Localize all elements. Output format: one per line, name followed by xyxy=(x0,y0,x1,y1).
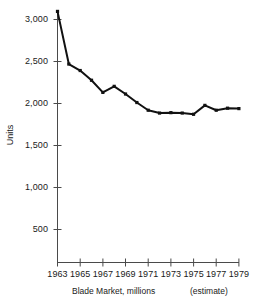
data-point xyxy=(56,10,59,13)
y-tick-label-2500: 2,500 xyxy=(6,56,48,66)
chart-plot-area xyxy=(0,0,254,305)
x-tick-label-1979: 1979 xyxy=(224,269,254,279)
data-point xyxy=(90,79,93,82)
data-point xyxy=(181,111,184,114)
data-point xyxy=(101,91,104,94)
y-tick-label-1000: 1,000 xyxy=(6,182,48,192)
line-chart: 3,000 2,500 2,000 1,500 1,000 500 Units … xyxy=(0,0,254,305)
data-point xyxy=(147,109,150,112)
y-tick-label-2000: 2,000 xyxy=(6,98,48,108)
x-axis-caption: Blade Market, millions xyxy=(72,286,155,296)
series-markers-units xyxy=(56,10,241,116)
data-point xyxy=(158,111,161,114)
y-tick-label-3000: 3,000 xyxy=(6,14,48,24)
data-point xyxy=(124,92,127,95)
data-point xyxy=(79,69,82,72)
data-point xyxy=(67,62,70,65)
data-point xyxy=(237,107,240,110)
data-point xyxy=(169,111,172,114)
series-line-units xyxy=(58,11,239,114)
data-point xyxy=(226,107,229,110)
y-axis-title: Units xyxy=(5,112,15,158)
data-point xyxy=(113,85,116,88)
data-point xyxy=(203,104,206,107)
estimate-annotation: (estimate) xyxy=(190,286,228,296)
data-point xyxy=(215,109,218,112)
y-tick-label-500: 500 xyxy=(6,224,48,234)
data-point xyxy=(192,113,195,116)
data-point xyxy=(135,101,138,104)
